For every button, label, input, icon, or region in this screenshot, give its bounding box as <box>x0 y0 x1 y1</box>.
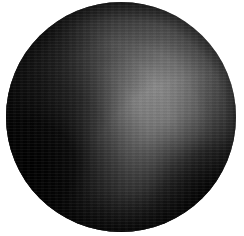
sphere-svg <box>0 0 244 236</box>
sphere-limb-darkening-layer <box>0 0 244 236</box>
sphere-shading-layers <box>0 0 244 236</box>
shaded-sphere-figure <box>0 0 244 236</box>
image-canvas <box>0 0 244 236</box>
